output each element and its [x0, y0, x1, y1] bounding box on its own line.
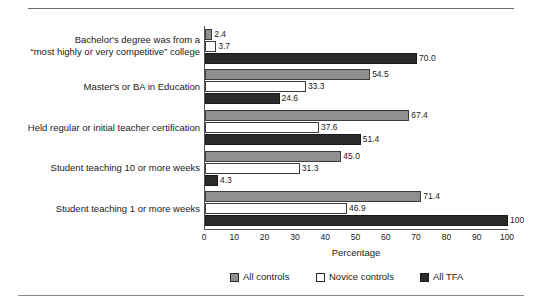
bar-group: 2.43.770.0 [205, 29, 508, 65]
legend-label: Novice controls [329, 270, 394, 284]
legend-label: All TFA [433, 270, 463, 284]
bottom-divider-rule [18, 295, 524, 296]
bar-novice-controls[interactable] [205, 163, 300, 174]
x-axis-tick-label: 0 [202, 231, 207, 243]
category-label: Bachelor's degree was from a “most highl… [10, 34, 200, 58]
bar-all-tfa[interactable] [205, 93, 280, 104]
bar-value-label: 70.0 [417, 53, 436, 64]
chart-legend: All controlsNovice controlsAll TFA [204, 270, 494, 286]
x-axis-tick-label: 60 [381, 231, 390, 243]
bar-all-controls[interactable] [205, 29, 212, 40]
x-axis-tick-label: 90 [472, 231, 481, 243]
bar-value-label: 37.6 [319, 122, 338, 133]
bar-group: 71.446.9100 [205, 191, 508, 227]
x-axis-tick-label: 40 [320, 231, 329, 243]
bar-value-label: 71.4 [421, 191, 440, 202]
bar-value-label: 31.3 [300, 163, 319, 174]
bar-all-controls[interactable] [205, 191, 421, 202]
x-axis-tick-label: 80 [442, 231, 451, 243]
category-axis-labels: Bachelor's degree was from a “most highl… [6, 26, 200, 229]
bar-all-tfa[interactable] [205, 134, 361, 145]
x-axis-tick-label: 100 [500, 231, 514, 243]
bar-novice-controls[interactable] [205, 81, 306, 92]
bar-row: 51.4 [205, 134, 508, 145]
bar-row: 70.0 [205, 53, 508, 64]
bar-group: 67.437.651.4 [205, 110, 508, 146]
x-axis-line [204, 229, 508, 230]
category-label: Held regular or initial teacher certific… [10, 122, 200, 134]
bar-row: 33.3 [205, 81, 508, 92]
top-divider-rule [28, 8, 514, 9]
bar-value-label: 100 [508, 215, 524, 226]
bar-all-controls[interactable] [205, 69, 370, 80]
bar-value-label: 3.7 [216, 41, 230, 52]
bar-value-label: 33.3 [306, 81, 325, 92]
legend-swatch-icon [420, 273, 429, 282]
bar-row: 54.5 [205, 69, 508, 80]
bar-value-label: 24.6 [280, 93, 299, 104]
bar-all-tfa[interactable] [205, 215, 508, 226]
bar-all-controls[interactable] [205, 110, 409, 121]
bar-value-label: 46.9 [347, 203, 366, 214]
legend-item-novice-controls[interactable]: Novice controls [316, 270, 394, 284]
bar-all-tfa[interactable] [205, 175, 218, 186]
bar-group: 54.533.324.6 [205, 69, 508, 105]
bar-value-label: 67.4 [409, 110, 428, 121]
legend-item-all-controls[interactable]: All controls [230, 270, 289, 284]
bar-row: 3.7 [205, 41, 508, 52]
bar-value-label: 2.4 [212, 29, 226, 40]
bar-value-label: 45.0 [341, 151, 360, 162]
bar-group: 45.031.34.3 [205, 151, 508, 187]
bar-row: 71.4 [205, 191, 508, 202]
bar-novice-controls[interactable] [205, 203, 347, 214]
legend-label: All controls [243, 270, 289, 284]
bar-all-controls[interactable] [205, 151, 341, 162]
x-axis-tick-label: 70 [411, 231, 420, 243]
category-label: Student teaching 10 or more weeks [10, 162, 200, 174]
x-axis-tick-label: 10 [230, 231, 239, 243]
bar-novice-controls[interactable] [205, 122, 319, 133]
bar-row: 100 [205, 215, 508, 226]
bar-row: 37.6 [205, 122, 508, 133]
bar-row: 46.9 [205, 203, 508, 214]
legend-swatch-icon [230, 273, 239, 282]
bar-value-label: 54.5 [370, 69, 389, 80]
legend-swatch-icon [316, 273, 325, 282]
x-axis-tick-label: 30 [290, 231, 299, 243]
x-axis-title: Percentage [204, 247, 508, 258]
plot-area: 2.43.770.054.533.324.667.437.651.445.031… [204, 26, 508, 229]
category-label: Master's or BA in Education [10, 81, 200, 93]
x-axis-tick-label: 20 [260, 231, 269, 243]
chart-figure: Bachelor's degree was from a “most highl… [0, 0, 540, 308]
bar-row: 24.6 [205, 93, 508, 104]
x-axis-ticks: 0102030405060708090100 [204, 231, 508, 245]
bar-row: 4.3 [205, 175, 508, 186]
bar-value-label: 51.4 [361, 134, 380, 145]
bar-row: 2.4 [205, 29, 508, 40]
bar-all-tfa[interactable] [205, 53, 417, 64]
bar-row: 45.0 [205, 151, 508, 162]
category-label: Student teaching 1 or more weeks [10, 203, 200, 215]
legend-item-all-tfa[interactable]: All TFA [420, 270, 463, 284]
x-axis-tick-label: 50 [351, 231, 360, 243]
bar-novice-controls[interactable] [205, 41, 216, 52]
bar-row: 67.4 [205, 110, 508, 121]
bar-value-label: 4.3 [218, 175, 232, 186]
bar-row: 31.3 [205, 163, 508, 174]
